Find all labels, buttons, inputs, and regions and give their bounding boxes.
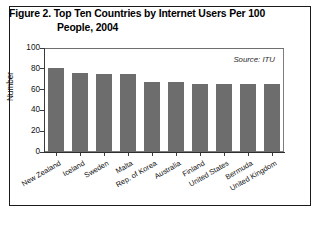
bar	[216, 84, 233, 152]
bar	[144, 82, 161, 152]
figure-title-line-1: Figure 2. Top Ten Countries by Internet …	[9, 8, 265, 19]
y-tick-label: 60	[0, 85, 44, 95]
y-tick-mark	[40, 48, 44, 49]
y-tick-label: 40	[0, 105, 44, 115]
x-tick-mark	[80, 153, 81, 156]
x-tick-mark	[128, 153, 129, 156]
x-tick-mark	[152, 153, 153, 156]
figure-title: Figure 2. Top Ten Countries by Internet …	[9, 7, 295, 34]
bar	[120, 74, 137, 152]
x-tick-mark	[200, 153, 201, 156]
bar-chart: Source: ITU Number 020406080100 New Zeal…	[0, 36, 300, 198]
y-tick-mark	[40, 152, 44, 153]
y-tick-mark	[40, 68, 44, 69]
figure-title-line-2: People, 2004	[9, 21, 295, 35]
x-tick-mark	[104, 153, 105, 156]
y-tick-label: 20	[0, 126, 44, 136]
y-tick-label: 80	[0, 64, 44, 74]
y-tick-mark	[40, 131, 44, 132]
source-annotation: Source: ITU	[233, 55, 275, 64]
bar	[192, 84, 209, 152]
bar	[240, 84, 257, 152]
x-tick-mark	[248, 153, 249, 156]
bar	[48, 68, 65, 152]
bar	[96, 74, 113, 152]
y-tick-mark	[40, 89, 44, 90]
x-tick-mark	[176, 153, 177, 156]
x-tick-mark	[224, 153, 225, 156]
y-tick-mark	[40, 110, 44, 111]
bar	[72, 73, 89, 152]
bar	[168, 82, 185, 152]
x-tick-mark	[272, 153, 273, 156]
y-axis-line	[44, 48, 45, 153]
y-tick-label: 0	[0, 147, 44, 157]
x-tick-mark	[56, 153, 57, 156]
y-tick-label: 100	[0, 43, 44, 53]
bar	[264, 84, 281, 152]
